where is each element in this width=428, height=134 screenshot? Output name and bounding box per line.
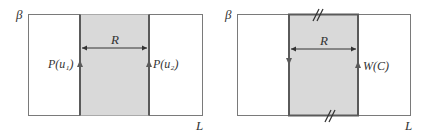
left-y-axis-label: β [15,7,23,22]
right-x-axis-label: L [404,118,412,133]
left-panel: β L R P(u₁) P(u₂) [15,7,203,133]
right-panel: β L R W(C) [224,7,412,133]
right-line-label: P(u₂) [152,57,179,71]
diagram-canvas: β L R P(u₁) P(u₂) β L R W(C) [0,0,428,134]
left-x-axis-label: L [195,118,203,133]
left-width-label: R [110,32,119,47]
left-line-label: P(u₁) [47,57,74,71]
left-strip [80,15,149,116]
right-width-label: R [319,33,328,48]
right-y-axis-label: β [224,7,232,22]
right-strip [289,15,358,116]
loop-label: W(C) [363,59,389,73]
